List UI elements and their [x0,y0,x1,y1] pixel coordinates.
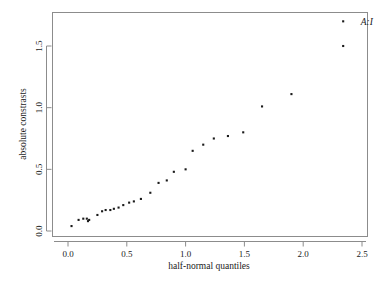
y-tick-label: 1.5 [34,40,44,52]
x-tick-label: 0.5 [121,249,133,259]
data-point [118,207,120,209]
x-tick-label: 2.0 [298,249,310,259]
data-point [96,214,98,216]
point-label-a-i: A:I [360,17,374,27]
data-point [342,45,344,47]
data-point [101,210,103,212]
data-point [149,192,151,194]
data-point [166,179,168,181]
point-annotations: A:I [360,17,374,27]
x-axis-tick-labels: 0.00.51.01.52.02.5 [62,249,368,259]
data-point [78,219,80,221]
data-point [113,208,115,210]
scatter-points [70,20,344,227]
data-point [261,105,263,107]
data-point [105,209,107,211]
y-tick-label: 0.5 [34,163,44,175]
data-point [185,168,187,170]
x-tick-label: 2.5 [356,249,368,259]
data-point [242,131,244,133]
y-tick-label: 0.0 [34,225,44,237]
data-point [122,204,124,206]
data-point [86,218,88,220]
plot-frame [53,13,368,237]
data-point [133,200,135,202]
data-point [290,93,292,95]
data-point [342,20,344,22]
data-point [213,137,215,139]
data-point [173,171,175,173]
data-point [128,202,130,204]
y-tick-label: 1.0 [34,102,44,114]
data-point [158,182,160,184]
x-axis-title: half-normal quantiles [168,261,250,271]
data-point [88,219,90,221]
data-point [192,150,194,152]
y-axis-title: absolute constrasts [18,88,28,160]
y-axis-ticks [47,46,52,231]
plot-canvas: 0.00.51.01.52.02.5 0.00.51.01.5 A:I half… [0,0,391,282]
data-point [202,144,204,146]
data-point [227,135,229,137]
data-point [70,225,72,227]
data-point [109,209,111,211]
x-tick-label: 1.0 [180,249,192,259]
x-tick-label: 1.5 [239,249,251,259]
x-axis-ticks [68,242,362,247]
x-tick-label: 0.0 [62,249,74,259]
half-normal-plot-figure: 0.00.51.01.52.02.5 0.00.51.01.5 A:I half… [0,0,391,282]
y-axis-tick-labels: 0.00.51.01.5 [34,40,44,237]
data-point [82,218,84,220]
data-point [140,198,142,200]
